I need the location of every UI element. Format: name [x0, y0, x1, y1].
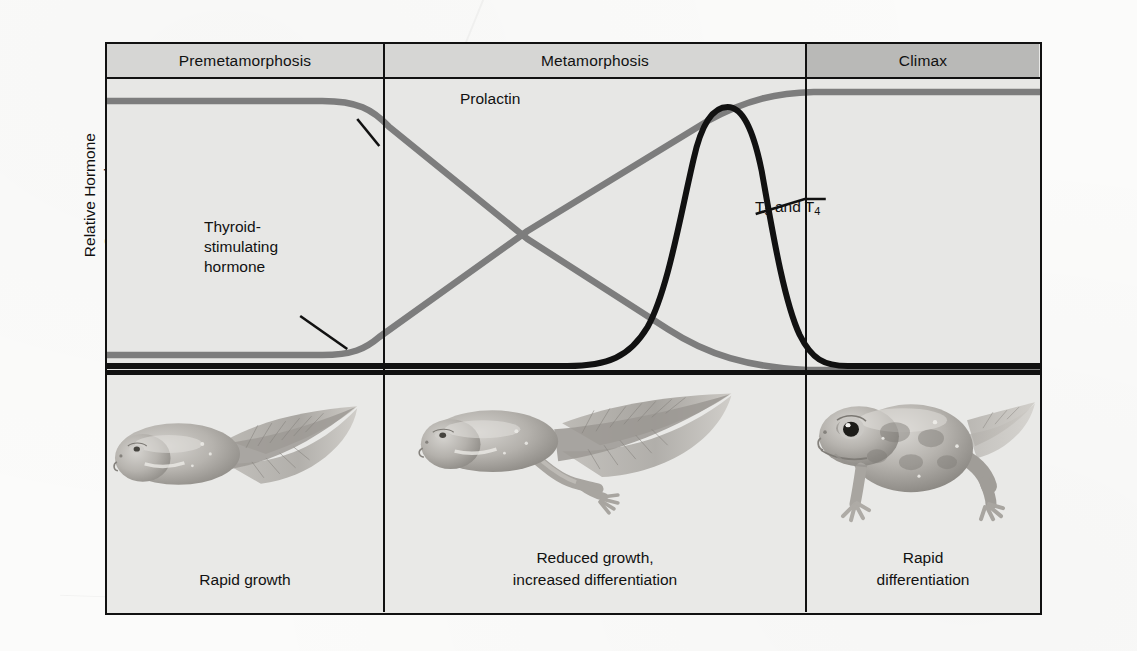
tsh-leader-line: [300, 316, 347, 349]
metamorphosis-figure: Premetamorphosis Metamorphosis Climax: [105, 42, 1042, 615]
chart-divider-1: [383, 79, 385, 370]
stage-header-premetamorphosis: Premetamorphosis: [107, 44, 385, 77]
stage-cell-premetamorphosis: Rapid growth: [107, 375, 385, 612]
tadpole-no-legs-illustration: [107, 375, 383, 569]
t3-subscript: 3: [764, 205, 770, 217]
stage-header-climax: Climax: [807, 44, 1039, 77]
stage-cell-climax: Rapid differentiation: [807, 375, 1039, 612]
stage-illustration-row: Rapid growth: [107, 375, 1040, 612]
t4-subscript: 4: [814, 205, 820, 217]
page-background: Relative Hormone Concentrations Premetam…: [0, 0, 1137, 651]
t3-and-t4-label: T3 and T4: [755, 197, 820, 217]
t3-t4-mid: and T: [771, 198, 815, 215]
stage-cell-metamorphosis: Reduced growth, increased differentiatio…: [385, 375, 807, 612]
prolactin-leader-line: [357, 119, 379, 146]
stage-caption-metamorphosis: Reduced growth, increased differentiatio…: [513, 547, 677, 612]
young-frog-illustration: [807, 375, 1039, 547]
stage-caption-premetamorphosis: Rapid growth: [199, 569, 290, 612]
tadpole-with-hindlegs-illustration: [385, 375, 805, 547]
chart-divider-2: [805, 79, 807, 370]
stage-caption-climax: Rapid differentiation: [877, 547, 970, 612]
thyroid-stimulating-hormone-label: Thyroid- stimulating hormone: [204, 217, 278, 276]
prolactin-label: Prolactin: [460, 89, 520, 109]
stage-header-metamorphosis: Metamorphosis: [385, 44, 807, 77]
hormone-chart: Prolactin Thyroid- stimulating hormone T…: [107, 79, 1040, 370]
stage-header-row: Premetamorphosis Metamorphosis Climax: [107, 44, 1040, 79]
